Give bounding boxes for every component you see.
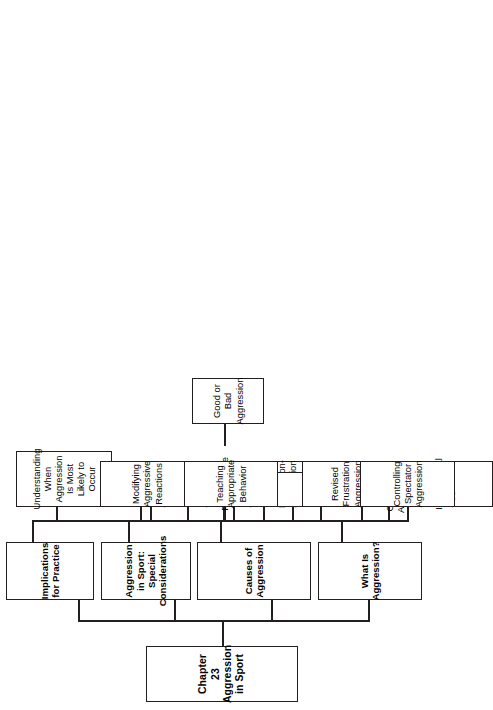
node-understanding-line1: Understanding When <box>31 449 53 510</box>
node-good-or-bad-aggression[interactable]: Good or Bad Aggression <box>192 378 264 424</box>
node-teaching-line2: Appropriate Behavior <box>225 460 247 508</box>
connector-to-understanding-when-aggression <box>56 507 58 522</box>
node-teaching-line1: Teaching <box>214 465 225 503</box>
node-root[interactable]: Chapter 23 Aggression in Sport <box>146 646 298 702</box>
node-understanding-when-aggression-is-most-likely-to-occur[interactable]: Understanding When Aggression Is Most Li… <box>16 451 112 507</box>
connector-root-spine <box>78 620 368 622</box>
connector-implications-stub <box>32 522 34 542</box>
connector-special-considerations-stub <box>128 522 130 542</box>
connector-to-modifying-aggressive-reactions <box>140 507 142 522</box>
node-revised-frustration-line1: Revised Frustration <box>329 462 351 507</box>
connector-root-to-causes <box>271 600 273 622</box>
node-teaching-appropriate-behavior[interactable]: Teaching Appropriate Behavior <box>184 461 278 507</box>
connector-what-is-aggression-stub <box>341 522 343 542</box>
connector-causes-stub <box>220 522 222 542</box>
node-aggression-in-sport-special-considerations[interactable]: Aggression in Sport: Special Considerati… <box>101 542 191 600</box>
node-understanding-line2: Aggression Is Most <box>53 454 75 504</box>
node-what-is-aggression[interactable]: What Is Aggression? <box>318 542 422 600</box>
node-implications-for-practice-label: Implications for Practice <box>39 543 62 600</box>
node-modifying-aggressive-reactions[interactable]: Modifying Aggressive Reactions <box>100 461 194 507</box>
node-root-line1: Chapter 23 <box>197 649 222 699</box>
node-controlling-spectator-line2: Aggression <box>413 461 424 508</box>
node-what-is-aggression-label: What Is Aggression? <box>359 541 382 600</box>
node-controlling-spectator-line1: Controlling Spectator <box>391 462 413 507</box>
connector-root-stub <box>222 622 224 646</box>
node-controlling-spectator-aggression[interactable]: Controlling Spectator Aggression <box>360 461 455 507</box>
node-causes-of-aggression-label: Causes of Aggression <box>243 544 266 597</box>
node-good-or-bad-line1: Good or Bad <box>211 381 233 421</box>
connector-root-to-implications <box>78 600 80 622</box>
node-root-line2: Aggression in Sport <box>222 645 247 703</box>
node-special-considerations-line2: Special Considerations <box>146 536 169 607</box>
node-special-considerations-line1: Aggression in Sport: <box>123 544 146 597</box>
connector-implications-bus <box>32 520 407 522</box>
node-good-or-bad-line2: Aggression <box>234 378 245 425</box>
connector-root-to-special-considerations <box>174 600 176 622</box>
connector-root-to-what-is-aggression <box>368 600 370 622</box>
connector-to-controlling-spectator-aggression <box>407 507 409 522</box>
node-modifying-line2: Aggressive Reactions <box>141 461 163 507</box>
node-implications-for-practice[interactable]: Implications for Practice <box>6 542 94 600</box>
node-causes-of-aggression[interactable]: Causes of Aggression <box>197 542 311 600</box>
connector-to-good-or-bad-aggression <box>224 424 226 446</box>
node-understanding-line3: Likely to Occur <box>75 454 97 504</box>
node-modifying-line1: Modifying <box>130 464 141 504</box>
